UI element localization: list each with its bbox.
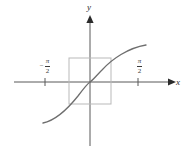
x-axis-arrow-icon [168, 78, 176, 85]
x-tick-label-negative-pi-over-2: − π 2 [33, 58, 57, 75]
math-figure: x y − π 2 π 2 [0, 0, 190, 156]
tick-numerator: π [45, 58, 51, 67]
y-axis-label: y [87, 3, 91, 12]
y-axis-arrow-icon [86, 15, 93, 23]
s-curve [43, 45, 146, 123]
plot-canvas [0, 0, 190, 156]
minus-sign: − [40, 63, 44, 70]
tick-numerator-right: π [137, 58, 143, 67]
x-tick-label-pi-over-2: π 2 [127, 58, 151, 75]
x-axis-label: x [176, 78, 180, 87]
tick-denominator: 2 [46, 67, 50, 75]
tick-denominator-right: 2 [138, 67, 142, 75]
